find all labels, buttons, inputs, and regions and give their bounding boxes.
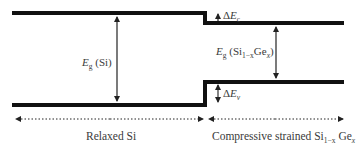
delta-ev-label: ΔEv	[223, 87, 241, 102]
relaxed-si-label: Relaxed Si	[86, 130, 136, 142]
conduction-band-line	[12, 13, 344, 23]
band-diagram: Eg (Si) Eg (Si1−xGex) ΔEc ΔEv Relaxed Si…	[0, 0, 358, 152]
eg-si-label: Eg (Si)	[81, 56, 112, 71]
eg-sige-label: Eg (Si1−xGex)	[215, 45, 274, 60]
strained-sige-label: Compressive strained Si1−x Gex	[212, 130, 356, 145]
valence-band-line	[12, 82, 344, 105]
